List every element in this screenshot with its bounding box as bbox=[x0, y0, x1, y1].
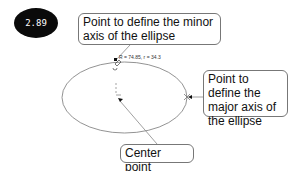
dimension-readout: R = 74.85, r = 34.3 bbox=[119, 54, 161, 60]
callout-center-point: Center point bbox=[120, 144, 194, 163]
center-leader bbox=[120, 101, 157, 144]
ellipse bbox=[62, 62, 187, 133]
callout-minor-axis: Point to define the minor axis of the el… bbox=[78, 13, 221, 45]
minor-axis-point bbox=[114, 58, 117, 61]
pencil-cursor-icon bbox=[113, 60, 121, 70]
callout-major-axis: Point to define the major axis of the el… bbox=[203, 70, 288, 117]
